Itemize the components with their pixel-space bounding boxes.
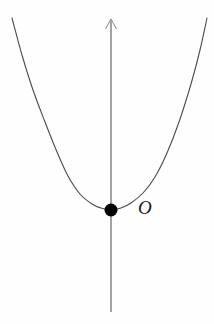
origin-label: O	[138, 198, 152, 217]
parabola-curve	[12, 18, 207, 210]
parabola-diagram	[0, 0, 214, 324]
filled-point-icon	[105, 204, 118, 217]
figure-canvas: O	[0, 0, 214, 324]
